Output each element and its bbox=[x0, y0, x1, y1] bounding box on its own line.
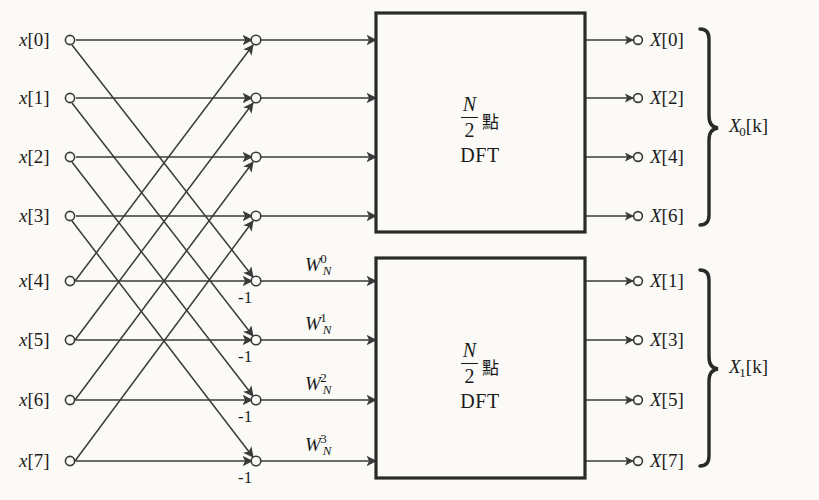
lower-dft-block-label: N 2 點 DFT bbox=[420, 339, 540, 413]
flow-graph-canvas bbox=[0, 0, 819, 500]
upper-dft-block-label: N 2 點 DFT bbox=[420, 93, 540, 167]
upper-dft-transform: DFT bbox=[420, 144, 540, 167]
input-label-6: x[6] bbox=[19, 390, 50, 409]
gain-label-minus-one-1: -1 bbox=[238, 348, 252, 365]
lower-dft-unit: 點 bbox=[482, 354, 499, 379]
twiddle-label-3: W3N bbox=[305, 432, 331, 457]
twiddle-label-2: W2N bbox=[305, 371, 331, 396]
input-label-3: x[3] bbox=[19, 206, 50, 225]
input-label-0: x[0] bbox=[19, 30, 50, 49]
node-to-upper-block-lines bbox=[259, 40, 376, 216]
horizontal-input-branches bbox=[76, 40, 252, 461]
even-output-group-label: X0[k] bbox=[729, 116, 768, 138]
upper-dft-unit: 點 bbox=[482, 108, 499, 133]
butterfly-up-branches bbox=[72, 45, 253, 465]
twiddle-label-0: W0N bbox=[305, 252, 331, 277]
odd-output-group-label: X1[k] bbox=[729, 357, 768, 379]
lower-dft-transform: DFT bbox=[420, 390, 540, 413]
output-label-6: X[5] bbox=[650, 390, 684, 409]
gain-label-minus-one-2: -1 bbox=[238, 408, 252, 425]
fft-flow-graph: x[0] x[1] x[2] x[3] x[4] x[5] x[6] x[7] … bbox=[0, 0, 819, 500]
gain-label-minus-one-3: -1 bbox=[238, 469, 252, 486]
butterfly-nodes bbox=[251, 35, 261, 466]
input-label-7: x[7] bbox=[19, 451, 50, 470]
output-label-7: X[7] bbox=[650, 451, 684, 470]
output-label-1: X[2] bbox=[650, 88, 684, 107]
input-terminals bbox=[65, 35, 74, 465]
output-terminals bbox=[634, 36, 643, 466]
lower-dft-fraction: N 2 bbox=[461, 339, 478, 388]
output-label-5: X[3] bbox=[650, 330, 684, 349]
output-label-0: X[0] bbox=[650, 30, 684, 49]
output-label-3: X[6] bbox=[650, 206, 684, 225]
input-label-1: x[1] bbox=[19, 88, 50, 107]
butterfly-down-branches bbox=[72, 45, 253, 457]
input-label-4: x[4] bbox=[19, 271, 50, 290]
input-label-5: x[5] bbox=[19, 330, 50, 349]
gain-label-minus-one-0: -1 bbox=[238, 289, 252, 306]
output-label-2: X[4] bbox=[650, 147, 684, 166]
input-label-2: x[2] bbox=[19, 147, 50, 166]
output-label-4: X[1] bbox=[650, 271, 684, 290]
block-to-output-lines bbox=[585, 40, 633, 461]
twiddle-label-1: W1N bbox=[305, 311, 331, 336]
upper-dft-fraction: N 2 bbox=[461, 93, 478, 142]
output-group-braces bbox=[700, 29, 718, 466]
